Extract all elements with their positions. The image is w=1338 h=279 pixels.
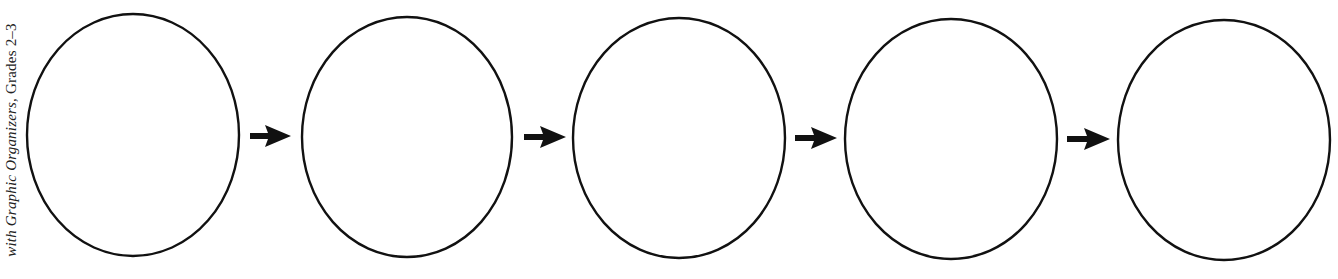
sequence-ellipse-1 <box>27 14 239 256</box>
sequence-ellipse-5 <box>1118 20 1330 260</box>
sequence-diagram <box>0 0 1338 279</box>
nodes-layer <box>27 14 1330 260</box>
right-arrow-icon-2 <box>524 126 566 148</box>
sequence-ellipse-4 <box>845 19 1057 259</box>
sequence-ellipse-2 <box>302 17 512 257</box>
right-arrow-icon-1 <box>250 125 291 147</box>
right-arrow-icon-3 <box>795 127 837 149</box>
worksheet-page: with Graphic Organizers, Grades 2–3 <box>0 0 1338 279</box>
right-arrow-icon-4 <box>1067 128 1110 150</box>
sequence-ellipse-3 <box>573 18 785 258</box>
